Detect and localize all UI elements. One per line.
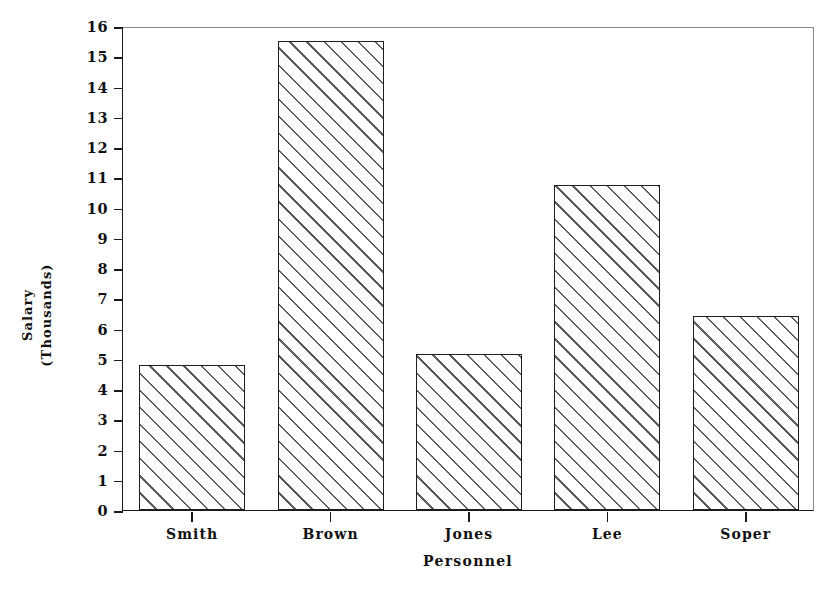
y-axis-tick-mark [114,148,123,150]
y-axis-tick-mark [114,209,123,211]
y-axis-title-line-1: Salary [18,245,37,385]
y-axis-tick-mark [114,57,123,59]
y-axis-tick-label: 12 [64,139,108,156]
y-axis-tick-label: 2 [64,442,108,459]
y-axis-tick-label: 10 [64,200,108,217]
y-axis-tick-label: 0 [64,502,108,519]
y-axis-tick-label: 15 [64,48,108,65]
x-axis-tick-mark [468,512,470,522]
bar-chart: Salary (Thousands) 012345678910111213141… [0,0,834,591]
y-axis-tick-mark [114,481,123,483]
y-axis-tick-mark [114,118,123,120]
x-axis-tick-label: Brown [251,526,411,542]
y-axis-tick-mark [114,299,123,301]
y-axis-tick-label: 13 [64,109,108,126]
bar [554,185,660,510]
y-axis-tick-label: 14 [64,79,108,96]
y-axis-tick-label: 8 [64,260,108,277]
y-axis-tick-label: 11 [64,169,108,186]
y-axis-tick-mark [114,27,123,29]
y-axis-title: Salary (Thousands) [18,245,58,385]
y-axis-tick-mark [114,390,123,392]
y-axis-tick-label: 6 [64,321,108,338]
y-axis-tick-mark [114,451,123,453]
y-axis-title-line-2: (Thousands) [37,245,56,385]
x-axis-tick-label: Jones [389,526,549,542]
x-axis-tick-mark [191,512,193,522]
y-axis-tick-label: 1 [64,472,108,489]
y-axis-tick-label: 4 [64,381,108,398]
x-axis-tick-label: Soper [666,526,826,542]
x-axis-tick-mark [607,512,609,522]
plot-area: 012345678910111213141516 SmithBrownJones… [122,27,814,511]
bar [416,354,522,510]
x-axis-tick-mark [745,512,747,522]
bar [278,41,384,510]
y-axis-tick-label: 5 [64,351,108,368]
y-axis-tick-mark [114,511,123,513]
y-axis-tick-mark [114,88,123,90]
y-axis-tick-label: 16 [64,18,108,35]
y-axis-tick-mark [114,420,123,422]
y-axis-tick-label: 3 [64,411,108,428]
bar [693,316,799,510]
y-axis-tick-label: 9 [64,230,108,247]
x-axis-tick-label: Smith [112,526,272,542]
x-axis-title: Personnel [122,553,814,569]
x-axis-tick-mark [330,512,332,522]
y-axis-tick-label: 7 [64,290,108,307]
y-axis-tick-mark [114,178,123,180]
x-axis-tick-label: Lee [527,526,687,542]
bar [139,365,245,510]
y-axis-tick-mark [114,330,123,332]
y-axis-tick-mark [114,360,123,362]
y-axis-tick-mark [114,239,123,241]
y-axis-tick-mark [114,269,123,271]
